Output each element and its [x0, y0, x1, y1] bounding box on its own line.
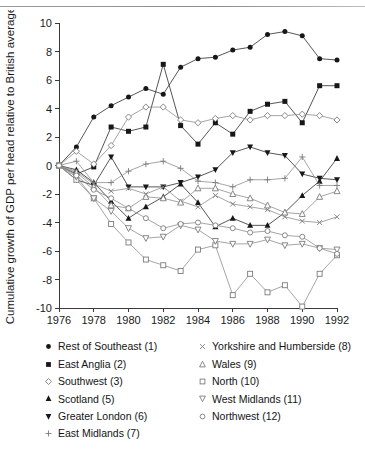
y-tick-label: 10: [40, 17, 52, 29]
data-point-marker-filled-circle: [109, 103, 114, 108]
data-point-marker-filled-square: [230, 132, 235, 137]
data-point-marker-open-circle: [230, 226, 235, 231]
data-point-marker-open-circle: [57, 163, 62, 168]
data-point-marker-open-circle: [335, 251, 340, 256]
data-point-marker-open-circle: [161, 226, 166, 231]
legend-item-label: West Midlands (11): [212, 394, 301, 405]
figure-container: -10-8-6-4-202468101976197819801982198419…: [0, 0, 365, 452]
data-point-marker-open-square: [230, 293, 235, 298]
x-tick-label: 1978: [82, 314, 106, 326]
data-point-marker-open-circle: [109, 196, 114, 201]
data-point-marker-plus: [178, 165, 184, 171]
filled-triangle-down-icon: [42, 410, 55, 423]
legend-item-right-3[interactable]: North (10): [196, 373, 364, 390]
data-point-marker-filled-circle: [248, 45, 253, 50]
y-tick-label: 0: [46, 160, 52, 172]
data-point-marker-open-square: [126, 240, 131, 245]
data-point-marker-open-circle: [213, 223, 218, 228]
data-point-marker-open-circle: [74, 173, 79, 178]
filled-triangle-up-icon: [42, 392, 55, 405]
legend-item-label: East Anglia (2): [58, 359, 126, 370]
data-point-marker-open-triangle-down: [126, 226, 132, 232]
data-point-marker-filled-square: [143, 125, 148, 130]
legend-item-right-4[interactable]: West Midlands (11): [196, 390, 364, 407]
data-point-marker-filled-square: [282, 99, 287, 104]
data-point-marker-filled-circle: [178, 65, 183, 70]
y-tick-label: -4: [42, 217, 52, 229]
legend-item-right-1[interactable]: Yorkshire and Humberside (8): [196, 338, 364, 355]
line-chart: -10-8-6-4-202468101976197819801982198419…: [0, 10, 365, 335]
data-point-marker-filled-triangle-down: [46, 414, 52, 420]
legend-item-left-2[interactable]: East Anglia (2): [42, 355, 192, 372]
legend-item-right-5[interactable]: Northwest (12): [196, 408, 364, 425]
data-point-marker-filled-square: [126, 129, 131, 134]
data-point-marker-open-square: [200, 379, 205, 384]
legend-item-label: Yorkshire and Humberside (8): [212, 341, 351, 352]
data-point-marker-open-circle: [91, 187, 96, 192]
data-point-marker-cross: [335, 214, 340, 219]
data-point-marker-open-circle: [248, 230, 253, 235]
data-point-marker-open-square: [196, 247, 201, 252]
data-point-marker-filled-circle: [161, 92, 166, 97]
series-line: [59, 158, 337, 226]
data-point-marker-filled-circle: [46, 344, 51, 349]
legend-item-label: Wales (9): [212, 359, 257, 370]
data-point-marker-open-diamond: [282, 113, 288, 119]
y-tick-label: 8: [46, 46, 52, 58]
data-point-marker-filled-square: [46, 362, 51, 367]
legend-item-left-3[interactable]: Southwest (3): [42, 373, 192, 390]
data-point-marker-open-diamond: [195, 120, 201, 126]
y-tick-label: -6: [42, 245, 52, 257]
data-point-marker-open-circle: [196, 220, 201, 225]
series-line: [59, 107, 337, 165]
data-point-marker-filled-circle: [143, 86, 148, 91]
open-diamond-icon: [42, 375, 55, 388]
data-point-marker-plus: [143, 161, 149, 167]
data-point-marker-plus: [247, 177, 253, 183]
figure-caption-clipped: [0, 444, 365, 452]
legend-item-label: Southwest (3): [58, 376, 123, 387]
x-tick-label: 1992: [325, 314, 349, 326]
y-tick-label: -10: [36, 302, 52, 314]
legend-item-right-2[interactable]: Wales (9): [196, 355, 364, 372]
data-point-marker-filled-circle: [300, 33, 305, 38]
data-point-marker-filled-circle: [213, 55, 218, 60]
data-point-marker-filled-triangle-down: [212, 167, 218, 173]
x-tick-label: 1980: [116, 314, 140, 326]
legend-item-label: East Midlands (7): [58, 428, 140, 439]
data-point-marker-open-diamond: [230, 113, 236, 119]
data-point-marker-open-circle: [317, 246, 322, 251]
data-point-marker-open-circle: [143, 216, 148, 221]
data-point-marker-open-triangle-down: [282, 243, 288, 249]
data-point-marker-plus: [160, 158, 166, 164]
data-point-marker-open-diamond: [334, 117, 340, 123]
series-1: [57, 29, 340, 168]
data-point-marker-open-square: [282, 283, 287, 288]
data-point-marker-filled-square: [300, 120, 305, 125]
series-9: [56, 162, 340, 216]
data-point-marker-filled-circle: [335, 58, 340, 63]
data-point-marker-open-square: [178, 268, 183, 273]
plus-icon: [42, 427, 55, 440]
legend-item-left-6[interactable]: East Midlands (7): [42, 425, 192, 442]
filled-circle-icon: [42, 340, 55, 353]
data-point-marker-open-diamond: [143, 104, 149, 110]
data-point-marker-open-circle: [200, 414, 205, 419]
data-point-marker-filled-circle: [317, 56, 322, 61]
cross-icon: [196, 340, 209, 353]
data-point-marker-filled-circle: [91, 115, 96, 120]
data-point-marker-cross: [213, 193, 218, 198]
data-point-marker-filled-triangle-up: [46, 396, 52, 402]
plot-area: -10-8-6-4-202468101976197819801982198419…: [0, 10, 365, 335]
filled-square-icon: [42, 358, 55, 371]
x-tick-label: 1990: [290, 314, 314, 326]
legend-item-left-4[interactable]: Scotland (5): [42, 390, 192, 407]
legend-column-right: Yorkshire and Humberside (8)Wales (9)Nor…: [196, 338, 364, 425]
data-point-marker-open-triangle-down: [143, 236, 149, 242]
legend-item-left-1[interactable]: Rest of Southeast (1): [42, 338, 192, 355]
x-tick-label: 1986: [221, 314, 245, 326]
legend-column-left: Rest of Southeast (1)East Anglia (2)Sout…: [42, 338, 192, 442]
data-point-marker-filled-circle: [196, 56, 201, 61]
legend-item-left-5[interactable]: Greater London (6): [42, 408, 192, 425]
data-point-marker-plus: [46, 431, 52, 437]
